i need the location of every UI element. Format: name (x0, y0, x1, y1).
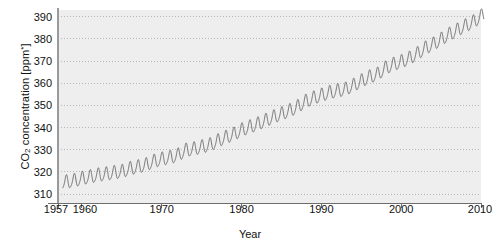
chart-figure: 310320330340350360370380390 195719601970… (0, 0, 500, 248)
x-axis-tick-label: 1960 (73, 203, 97, 215)
y-axis-title-subscript: 2 (23, 148, 32, 153)
x-axis-title: Year (0, 228, 500, 240)
x-axis-tick-label: 2010 (468, 203, 492, 215)
x-axis-tick-labels: 1957196019701980199020002010 (0, 203, 500, 223)
y-axis-title-superscript: * (19, 47, 28, 50)
x-axis-tick-label: 2000 (389, 203, 413, 215)
x-axis-tick-label: 1990 (309, 203, 333, 215)
y-axis-title-middle: concentration [ppm (19, 50, 31, 149)
x-axis-tick-label: 1980 (229, 203, 253, 215)
y-axis-title: CO2 concentration [ppm*] (19, 12, 32, 202)
x-axis-tick-label: 1970 (150, 203, 174, 215)
x-axis-tick-label: 1957 (44, 203, 68, 215)
y-axis-title-suffix: ] (19, 43, 31, 46)
y-axis-title-prefix: CO (19, 153, 31, 170)
